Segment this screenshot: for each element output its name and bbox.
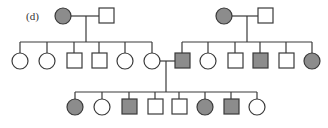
individual-III-4-male [148,99,163,114]
individual-II-3-male [67,53,82,68]
individual-II-2-female [39,53,55,69]
individual-I-3-affected-female [216,8,232,24]
individual-I-4-male [258,8,273,23]
individual-II-5-female [117,53,133,69]
pedigree-chart: (d) [0,0,328,128]
figure-label: (d) [26,10,39,23]
individual-III-1-affected-female [67,99,83,115]
individual-III-3-affected-male [122,99,137,114]
individual-II-9-male [228,53,243,68]
individual-II-11-male [279,53,294,68]
individual-III-8-female [249,99,265,115]
individual-III-6-affected-female [197,99,213,115]
pedigree-figure: (d) [0,0,328,128]
generation-III [67,99,265,115]
individual-II-7-affected-male [175,53,190,68]
individual-II-8-female [200,53,216,69]
individual-II-10-affected-male [253,53,268,68]
individual-III-5-male [172,99,187,114]
individual-II-12-affected-female [304,53,320,69]
individual-II-6-female [144,53,160,69]
individual-I-2-male [99,8,114,23]
individual-II-4-male [92,53,107,68]
individual-III-2-female [94,99,110,115]
individual-I-1-affected-female [55,8,71,24]
individual-II-1-female [12,53,28,69]
individual-III-7-affected-male [224,99,239,114]
